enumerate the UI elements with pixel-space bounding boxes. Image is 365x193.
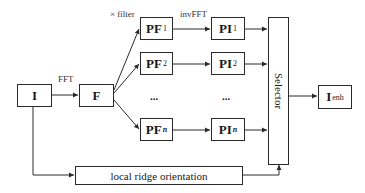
fft-node: F bbox=[79, 84, 114, 107]
filter-label: × filter bbox=[110, 9, 135, 19]
node-subscript: n bbox=[163, 125, 167, 134]
node-label: I bbox=[326, 89, 331, 105]
node-subscript: enh bbox=[332, 93, 344, 102]
pi-ellipsis: ... bbox=[222, 90, 230, 102]
diagram-canvas: FFT × filter invFFT I F PF1 PF2 PFn PI1 … bbox=[0, 0, 365, 193]
node-label: PI bbox=[219, 56, 232, 72]
pi1-node: PI1 bbox=[211, 17, 245, 40]
selector-node: Selector bbox=[268, 17, 289, 165]
connector-lines bbox=[0, 0, 365, 193]
node-label: PI bbox=[219, 21, 232, 37]
node-label: PF bbox=[146, 122, 162, 138]
node-subscript: 2 bbox=[233, 59, 237, 68]
node-label: PF bbox=[146, 21, 162, 37]
node-subscript: 1 bbox=[233, 24, 237, 33]
node-label: PF bbox=[146, 56, 162, 72]
enhanced-output-node: Ienh bbox=[318, 85, 352, 109]
input-image-node: I bbox=[17, 84, 52, 107]
pf-ellipsis: ... bbox=[150, 90, 158, 102]
node-label: I bbox=[32, 88, 37, 104]
node-label: F bbox=[93, 88, 101, 104]
node-label: local ridge orientation bbox=[110, 170, 207, 182]
node-label: Selector bbox=[273, 73, 285, 109]
invfft-label: invFFT bbox=[180, 9, 207, 19]
node-subscript: 2 bbox=[163, 59, 167, 68]
local-ridge-orientation-node: local ridge orientation bbox=[75, 166, 243, 185]
node-subscript: n bbox=[233, 125, 237, 134]
pf1-node: PF1 bbox=[140, 17, 173, 40]
node-subscript: 1 bbox=[163, 24, 167, 33]
fft-label: FFT bbox=[58, 74, 74, 84]
pf2-node: PF2 bbox=[140, 52, 173, 75]
node-label: PI bbox=[219, 122, 232, 138]
pin-node: PIn bbox=[211, 118, 245, 141]
pi2-node: PI2 bbox=[211, 52, 245, 75]
pfn-node: PFn bbox=[140, 118, 173, 141]
